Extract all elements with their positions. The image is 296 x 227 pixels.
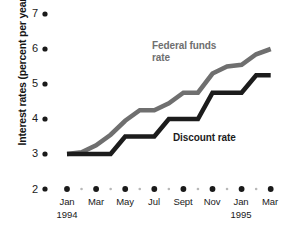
series-label-discount-rate: Discount rate [173,132,259,144]
x-year-label-1994: 1994 [49,209,85,220]
series-label-federal-funds-rate-line2: rate [152,52,170,63]
interest-rates-line-chart: Interest rates (percent per year) 7 6 5 … [0,0,296,227]
x-year-label-1995: 1995 [223,209,259,220]
y-axis-tick-dots [42,11,47,191]
x-axis-tick-dots [64,186,274,192]
x-tick-label-mar-1995: Mar [252,196,288,207]
plot-area [0,0,296,227]
series-label-federal-funds-rate: Federal funds rate [152,40,232,63]
series-label-federal-funds-rate-line1: Federal funds [152,40,216,51]
